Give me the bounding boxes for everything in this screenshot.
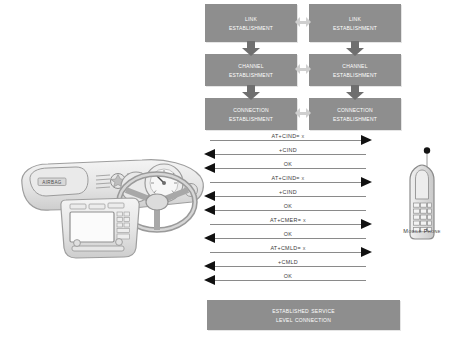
box-right-channel-line2: Establishment	[333, 70, 377, 79]
established-line2: Level Connection	[276, 315, 331, 324]
box-right-connection-line1: Connection	[337, 105, 373, 114]
console-slot	[72, 246, 124, 251]
mobile-phone-caption: Mobile Phone	[396, 228, 448, 234]
console-display	[70, 212, 114, 242]
message-row: +CMLD	[204, 260, 372, 274]
box-left-connection-line2: Establishment	[229, 114, 273, 123]
box-left-connection-line1: Connection	[233, 105, 269, 114]
box-left-link-line1: Link	[245, 14, 257, 23]
message-label: OK	[281, 231, 295, 237]
protocol-stack-group: Link Establishment Link Establishment Ch…	[205, 4, 401, 134]
box-right-channel-establishment: Channel Establishment	[309, 54, 401, 86]
car-dashboard-illustration: AIRBAG	[14, 154, 210, 266]
gauge-hub	[162, 181, 166, 185]
box-left-link-establishment: Link Establishment	[205, 4, 297, 42]
box-right-channel-line1: Channel	[342, 61, 367, 70]
message-label: +CIND	[276, 189, 300, 195]
arrow-down-left-link-to-channel	[242, 41, 260, 55]
message-label: AT+CIND= x	[268, 175, 307, 181]
message-label: OK	[281, 203, 295, 209]
arrow-peer-channel	[297, 64, 309, 75]
box-left-connection-establishment: Connection Establishment	[205, 98, 297, 130]
message-row: AT+CIND= x	[204, 134, 372, 148]
box-right-connection-establishment: Connection Establishment	[309, 98, 401, 130]
message-sequence-group: AT+CIND= x +CIND OK AT+CIND= x +CIND OK …	[204, 134, 372, 288]
box-left-channel-establishment: Channel Establishment	[205, 54, 297, 86]
steering-wheel-hub	[146, 194, 168, 210]
box-right-link-line2: Establishment	[333, 23, 377, 32]
message-row: AT+CMER= x	[204, 218, 372, 232]
arrow-peer-link	[297, 17, 309, 28]
message-label: OK	[281, 273, 295, 279]
box-left-channel-line1: Channel	[238, 61, 263, 70]
message-label: AT+CIND= x	[268, 133, 307, 139]
message-label: +CIND	[276, 147, 300, 153]
established-service-level-connection-box: Established Service Level Connection	[207, 300, 400, 330]
message-row: AT+CMLD= x	[204, 246, 372, 260]
console-knob-right	[116, 239, 123, 246]
message-row: AT+CIND= x	[204, 176, 372, 190]
message-row: OK	[204, 274, 372, 288]
box-right-link-line1: Link	[349, 14, 361, 23]
message-row: +CIND	[204, 190, 372, 204]
arrow-peer-connection	[297, 108, 309, 119]
arrow-down-right-link-to-channel	[346, 41, 364, 55]
mobile-phone-illustration: Mobile Phone	[396, 146, 448, 246]
box-right-connection-line2: Establishment	[333, 114, 377, 123]
box-right-link-establishment: Link Establishment	[309, 4, 401, 42]
message-row: OK	[204, 162, 372, 176]
diagram-canvas: Link Establishment Link Establishment Ch…	[0, 0, 456, 346]
message-label: AT+CMLD= x	[267, 245, 308, 251]
antenna-tip-icon	[424, 147, 430, 153]
message-row: OK	[204, 232, 372, 246]
message-label: AT+CMER= x	[267, 217, 309, 223]
airbag-label: AIRBAG	[42, 180, 62, 185]
arrow-down-left-channel-to-connection	[242, 85, 260, 99]
box-left-channel-line2: Establishment	[229, 70, 273, 79]
box-left-link-line2: Establishment	[229, 23, 273, 32]
message-row: +CIND	[204, 148, 372, 162]
established-line1: Established Service	[272, 306, 335, 315]
arrow-down-right-channel-to-connection	[346, 85, 364, 99]
message-label: +CMLD	[275, 259, 301, 265]
console-top-buttons	[70, 203, 124, 209]
message-label: OK	[281, 161, 295, 167]
message-row: OK	[204, 204, 372, 218]
console-knob-left	[74, 240, 81, 247]
phone-screen	[416, 170, 429, 199]
